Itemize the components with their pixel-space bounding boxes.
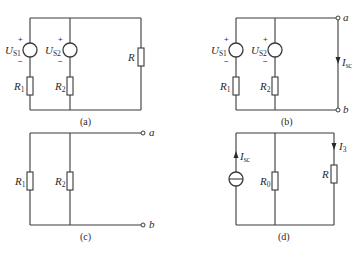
panel-a: + − US1 + − US2 R1 R2 R (a) — [5, 18, 144, 128]
svg-text:−: − — [224, 57, 229, 66]
caption-c: (c) — [80, 231, 91, 243]
terminal-a-label: a — [343, 11, 349, 23]
resistor-r2: R2 — [54, 77, 73, 95]
terminal-a — [336, 16, 340, 20]
voltage-source-us1: + − US1 — [5, 35, 37, 66]
svg-text:R1: R1 — [14, 175, 26, 189]
svg-text:R2: R2 — [54, 80, 66, 94]
svg-text:R1: R1 — [219, 80, 231, 94]
svg-text:+: + — [224, 35, 229, 44]
panel-b: a b Isc + − US1 + − US2 R1 R2 — [211, 11, 353, 128]
svg-text:I3: I3 — [338, 140, 347, 154]
terminal-a — [141, 131, 145, 135]
terminal-b-label: b — [343, 103, 349, 115]
voltage-source-us2: + − US2 — [251, 35, 282, 66]
svg-text:−: − — [58, 57, 63, 66]
svg-text:R2: R2 — [54, 175, 66, 189]
svg-text:+: + — [58, 35, 63, 44]
terminal-b — [141, 223, 145, 227]
panel-c: a b R1 R2 (c) — [14, 126, 155, 243]
svg-text:+: + — [263, 35, 268, 44]
caption-b: (b) — [281, 116, 293, 128]
caption-a: (a) — [80, 116, 91, 128]
svg-text:R0: R0 — [259, 175, 271, 189]
wire — [30, 18, 141, 110]
svg-text:−: − — [263, 57, 268, 66]
wire — [30, 133, 141, 225]
wire — [236, 133, 334, 225]
terminal-a-label: a — [149, 126, 155, 138]
resistor-r1: R1 — [219, 77, 239, 95]
svg-text:Isc: Isc — [239, 150, 251, 164]
resistor-r2: R2 — [54, 172, 73, 190]
svg-text:US2: US2 — [251, 44, 267, 58]
svg-text:US1: US1 — [211, 44, 227, 58]
terminal-b-label: b — [149, 218, 155, 230]
wire — [236, 18, 338, 110]
resistor-r: R — [321, 165, 337, 183]
terminal-b — [336, 108, 340, 112]
svg-text:US2: US2 — [45, 44, 61, 58]
svg-text:R: R — [321, 168, 329, 180]
svg-text:+: + — [18, 35, 23, 44]
svg-text:−: − — [18, 57, 23, 66]
panel-d: Isc R0 I3 R (d) — [229, 133, 347, 243]
svg-text:R1: R1 — [13, 80, 25, 94]
svg-text:Isc: Isc — [341, 56, 353, 70]
resistor-r: R — [127, 48, 144, 66]
resistor-r1: R1 — [14, 172, 33, 190]
svg-text:US1: US1 — [5, 44, 21, 58]
resistor-r2: R2 — [259, 77, 278, 95]
current-source-isc: Isc — [229, 150, 251, 186]
svg-text:R2: R2 — [259, 80, 271, 94]
caption-d: (d) — [278, 231, 290, 243]
resistor-r1: R1 — [13, 77, 33, 95]
voltage-source-us2: + − US2 — [45, 35, 77, 66]
svg-text:R: R — [127, 51, 135, 63]
circuit-diagram: + − US1 + − US2 R1 R2 R (a) — [0, 0, 360, 259]
resistor-r0: R0 — [259, 172, 278, 190]
voltage-source-us1: + − US1 — [211, 35, 243, 66]
